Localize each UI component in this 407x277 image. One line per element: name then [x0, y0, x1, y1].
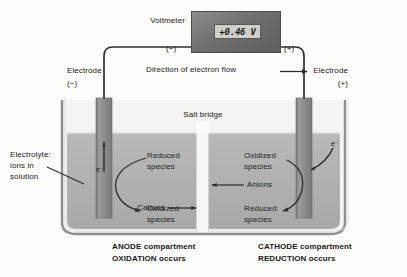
cathode-top-species-line1: Oxidized: [244, 151, 276, 161]
anions-label: Anions: [247, 180, 272, 190]
cathode-electron-label: e⁻: [331, 140, 339, 149]
cathode-bottom-species-line1: Reduced: [244, 204, 277, 214]
anode-top-species-line1: Reduced: [147, 151, 180, 161]
anode-caption-line1: ANODE compartment: [112, 242, 196, 252]
voltmeter-display: +0.46 V: [214, 24, 261, 39]
cathode-electrode-label: Electrode: [300, 66, 348, 76]
anode-electrode-label: Electrode: [67, 66, 102, 76]
anode-electrode-polarity: (−): [67, 79, 77, 89]
anode-bottom-species-line2: species: [147, 215, 175, 225]
cathode-bottom-species-line2: species: [244, 215, 272, 225]
cathode-electrode-polarity: (+): [300, 79, 348, 89]
cathode-top-species-line2: species: [244, 162, 272, 172]
voltmeter-positive-terminal-label: (+): [284, 44, 294, 54]
cations-label: Cations: [120, 203, 165, 213]
cathode-caption-line2: REDUCTION occurs: [258, 254, 336, 264]
electron-flow-label: Direction of electron flow: [146, 65, 236, 75]
voltmeter-label: Voltmeter: [120, 16, 185, 26]
salt-bridge: [196, 122, 209, 232]
anode-top-species-line2: species: [147, 162, 175, 172]
cathode-caption-line1: CATHODE compartment: [258, 242, 352, 252]
electrolyte-label-line2: ions in: [10, 161, 34, 171]
voltmeter-negative-terminal-label: (−): [166, 44, 176, 54]
voltmeter-reading: +0.46 V: [219, 27, 256, 37]
salt-bridge-label: Salt bridge: [172, 110, 234, 120]
anode-electron-label: e⁻: [96, 166, 104, 175]
electrochemical-cell-diagram: +0.46 V Voltmeter (−) (+) Direction of e…: [0, 0, 407, 277]
anode-caption-line2: OXIDATION occurs: [112, 254, 186, 264]
electrolyte-label-line1: Electrolyte:: [10, 150, 51, 160]
electrolyte-label-line3: solution: [10, 172, 38, 182]
